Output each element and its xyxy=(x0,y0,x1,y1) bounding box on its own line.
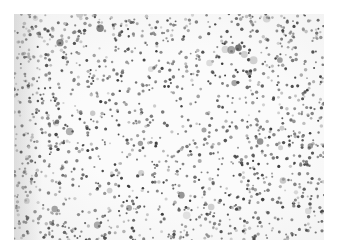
dot-field xyxy=(14,14,324,240)
micrograph-image xyxy=(14,14,324,240)
